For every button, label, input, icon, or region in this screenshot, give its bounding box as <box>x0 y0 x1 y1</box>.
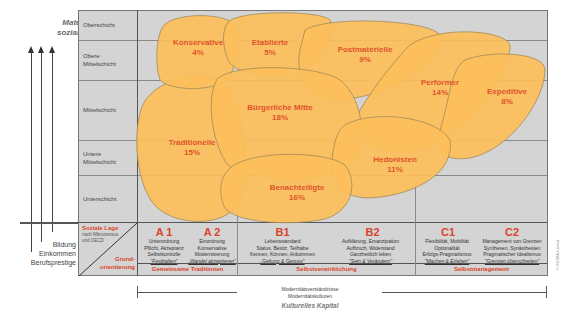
milieu-buergerliche-mitte: Bürgerliche Mitte18% <box>240 103 320 123</box>
column-head-b1: B1 <box>240 226 325 238</box>
milieu-konservative: Konservative4% <box>168 38 228 58</box>
col-line: Kennen, Können, Ankommen <box>240 251 325 258</box>
column-head-a2: A 2 <box>188 226 236 238</box>
col-motto: "Machen & Erleben" <box>416 258 478 265</box>
col-motto: "Grenzen überschreiten" <box>478 258 546 265</box>
col-line: Erfolgs-Pragmatismus <box>416 251 478 258</box>
column-text-a1: Unterordnung Pflicht, Akzeptanz Selbstko… <box>140 238 188 264</box>
milieu-name: Expeditive <box>477 87 537 97</box>
col-motto: "Festhalten" <box>140 258 188 265</box>
milieu-name: Benachteiligte <box>262 183 332 193</box>
group-gemeinsame-traditionen: Gemeinsame Traditionen <box>138 266 237 272</box>
milieu-hedonisten: Hedonisten11% <box>365 155 425 175</box>
milieu-share: 11% <box>365 165 425 175</box>
milieu-performer: Performer14% <box>410 78 470 98</box>
group-selbstverwirklichung: Selbstverwirklichung <box>238 266 415 272</box>
milieu-traditionelle: Traditionelle15% <box>157 138 227 158</box>
col-motto: "Sein & Verändern" <box>328 258 413 265</box>
col-line: Flexibilität, Mobilität <box>416 238 478 245</box>
milieu-share: 16% <box>262 193 332 203</box>
milieu-name: Traditionelle <box>157 138 227 148</box>
milieu-name: Hedonisten <box>365 155 425 165</box>
bottom-axis-title: Kulturelles Kapital <box>230 302 390 309</box>
col-motto: „Geltung & Genuss" <box>240 258 325 265</box>
milieu-share: 4% <box>168 48 228 58</box>
column-text-a2: Einordnung Konservative Modernisierung „… <box>188 238 236 264</box>
milieu-share: 8% <box>477 97 537 107</box>
column-text-b1: Lebensstandard Status, Besitz, Teilhabe … <box>240 238 325 264</box>
column-head-c2: C2 <box>478 226 546 238</box>
milieu-share: 18% <box>240 113 320 123</box>
col-line: Management von Grenzen <box>478 238 546 245</box>
milieu-postmaterielle: Postmaterielle9% <box>330 45 400 65</box>
milieu-share: 9% <box>330 55 400 65</box>
bottom-axis-line-left <box>137 292 237 293</box>
group-selbstmanagement: Selbstmanagement <box>416 266 547 272</box>
column-text-c1: Flexibilität, Mobilität Optionalität Erf… <box>416 238 478 264</box>
milieu-share: 14% <box>410 88 470 98</box>
column-head-b2: B2 <box>330 226 415 238</box>
copyright-notice: © SIGMA-Institut <box>555 240 560 270</box>
milieu-share: 5% <box>240 48 300 58</box>
column-head-c1: C1 <box>418 226 478 238</box>
column-text-b2: Aufklärung, Emanzipation Aufbruch, Wider… <box>328 238 413 264</box>
column-text-c2: Management von Grenzen Synthesen, Synäst… <box>478 238 546 264</box>
milieu-name: Konservative <box>168 38 228 48</box>
column-head-a1: A 1 <box>142 226 186 238</box>
milieu-name: Bürgerliche Mitte <box>240 103 320 113</box>
bottom-axis-description: Modernitätsverständnisse Modernitätskult… <box>230 286 390 299</box>
col-line: Pragmatischer Idealismus <box>478 251 546 258</box>
bottom-axis-line-right <box>382 292 546 293</box>
milieu-share: 15% <box>157 148 227 158</box>
col-line: Modernisierung <box>188 251 236 258</box>
milieu-name: Performer <box>410 78 470 88</box>
milieu-etablierte: Etablierte5% <box>240 38 300 58</box>
milieu-name: Postmaterielle <box>330 45 400 55</box>
bottom-axis-tick-right <box>546 286 547 298</box>
milieu-name: Etablierte <box>240 38 300 48</box>
col-motto: „Wandel akzeptieren" <box>188 258 236 265</box>
milieu-expeditive: Expeditive8% <box>477 87 537 107</box>
milieu-benachteiligte: Benachteiligte16% <box>262 183 332 203</box>
bottom-axis-line2: Modernitätskulturen <box>230 293 390 300</box>
